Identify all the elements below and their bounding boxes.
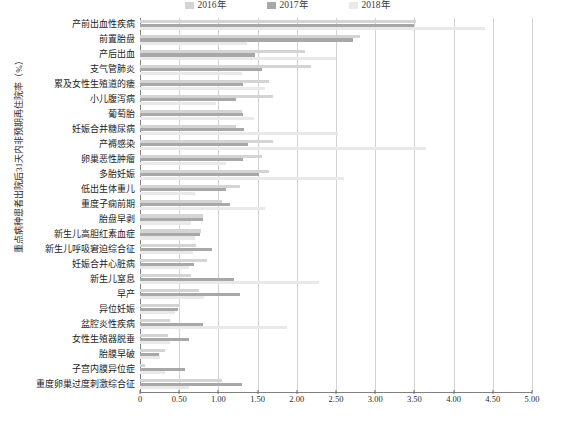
gridline bbox=[532, 18, 533, 392]
bar-group bbox=[140, 317, 532, 332]
bar-2018-7[interactable] bbox=[140, 132, 338, 135]
x-tick-mark bbox=[492, 390, 493, 394]
category-label: 胎膜早破 bbox=[99, 350, 135, 359]
x-tick-label: 4.50 bbox=[485, 394, 500, 404]
bar-group bbox=[140, 242, 532, 257]
x-axis-tick-labels: 00.501.001.502.002.503.003.504.004.505.0… bbox=[140, 394, 532, 408]
bar-group bbox=[140, 123, 532, 138]
category-label: 早产 bbox=[117, 290, 135, 299]
bar-2018-9[interactable] bbox=[140, 162, 226, 165]
bar-2018-8[interactable] bbox=[140, 147, 426, 150]
bar-group bbox=[140, 138, 532, 153]
category-label: 葡萄胎 bbox=[108, 110, 135, 119]
legend-swatch-icon bbox=[349, 2, 358, 9]
bar-2018-18[interactable] bbox=[140, 296, 204, 299]
bar-2018-11[interactable] bbox=[140, 192, 195, 195]
bar-group bbox=[140, 287, 532, 302]
bar-2018-20[interactable] bbox=[140, 326, 287, 329]
bar-2018-23[interactable] bbox=[140, 371, 165, 374]
bar-2018-14[interactable] bbox=[140, 236, 195, 239]
x-tick-label: 2.00 bbox=[289, 394, 304, 404]
bar-2018-2[interactable] bbox=[140, 57, 336, 60]
x-tick-mark bbox=[336, 390, 337, 394]
category-label: 新生儿窒息 bbox=[90, 275, 135, 284]
legend-item-2018年[interactable]: 2018年 bbox=[349, 1, 391, 11]
legend-swatch-icon bbox=[267, 2, 276, 9]
bar-2018-4[interactable] bbox=[140, 87, 265, 90]
bar-group bbox=[140, 198, 532, 213]
bar-group bbox=[140, 347, 532, 362]
bar-group bbox=[140, 78, 532, 93]
bar-group bbox=[140, 63, 532, 78]
category-label: 产褥感染 bbox=[99, 140, 135, 149]
legend-label: 2017年 bbox=[280, 1, 309, 11]
category-label: 小儿腹泻病 bbox=[90, 95, 135, 104]
legend-item-2016年[interactable]: 2016年 bbox=[185, 1, 227, 11]
x-tick-label: 5.00 bbox=[525, 394, 540, 404]
category-label: 新生儿高胆红素血症 bbox=[54, 230, 135, 239]
bar-group bbox=[140, 183, 532, 198]
bar-2018-24[interactable] bbox=[140, 386, 189, 389]
category-label: 异位妊娠 bbox=[99, 305, 135, 314]
x-tick-label: 1.50 bbox=[250, 394, 265, 404]
x-tick-mark bbox=[453, 390, 454, 394]
bar-2018-17[interactable] bbox=[140, 281, 319, 284]
bar-group bbox=[140, 168, 532, 183]
x-tick-mark bbox=[179, 390, 180, 394]
x-tick-label: 0 bbox=[138, 394, 142, 404]
category-label: 胎盘早剥 bbox=[99, 215, 135, 224]
bar-group bbox=[140, 108, 532, 123]
x-tick-mark bbox=[257, 390, 258, 394]
category-label: 妊娠合并心脏病 bbox=[72, 260, 135, 269]
legend-swatch-icon bbox=[185, 2, 194, 9]
x-tick-mark bbox=[296, 390, 297, 394]
legend-label: 2016年 bbox=[198, 1, 227, 11]
bar-group bbox=[140, 48, 532, 63]
category-label: 女性生殖器脱垂 bbox=[72, 335, 135, 344]
category-label: 卵巢恶性肿瘤 bbox=[81, 155, 135, 164]
bar-group bbox=[140, 33, 532, 48]
x-tick-mark bbox=[532, 390, 533, 394]
bar-2018-19[interactable] bbox=[140, 311, 175, 314]
category-label: 多胎妊娠 bbox=[99, 170, 135, 179]
bar-2018-15[interactable] bbox=[140, 251, 193, 254]
category-label: 新生儿呼吸窘迫综合征 bbox=[45, 245, 135, 254]
bar-group bbox=[140, 18, 532, 33]
category-label: 产后出血 bbox=[99, 50, 135, 59]
bar-group bbox=[140, 227, 532, 242]
x-tick-mark bbox=[140, 390, 141, 394]
x-tick-label: 1.00 bbox=[211, 394, 226, 404]
y-axis-category-labels: 产前出血性疾病前置胎盘产后出血支气管肺炎累及女性生殖道的瘘小儿腹泻病葡萄胎妊娠合… bbox=[0, 18, 138, 392]
category-label: 累及女性生殖道的瘘 bbox=[54, 80, 135, 89]
bar-2018-12[interactable] bbox=[140, 207, 265, 210]
bar-group bbox=[140, 332, 532, 347]
x-tick-label: 2.50 bbox=[329, 394, 344, 404]
bar-group bbox=[140, 153, 532, 168]
bar-2018-5[interactable] bbox=[140, 102, 216, 105]
bar-2018-6[interactable] bbox=[140, 117, 254, 120]
bar-2018-22[interactable] bbox=[140, 356, 160, 359]
category-label: 支气管肺炎 bbox=[90, 65, 135, 74]
category-label: 妊娠合并糖尿病 bbox=[72, 125, 135, 134]
bar-2018-1[interactable] bbox=[140, 42, 247, 45]
x-tick-mark bbox=[218, 390, 219, 394]
legend-item-2017年[interactable]: 2017年 bbox=[267, 1, 309, 11]
bar-group bbox=[140, 212, 532, 227]
bar-group bbox=[140, 257, 532, 272]
bar-2018-16[interactable] bbox=[140, 266, 189, 269]
x-tick-label: 3.00 bbox=[368, 394, 383, 404]
bar-2018-10[interactable] bbox=[140, 177, 344, 180]
bar-group bbox=[140, 362, 532, 377]
category-label: 盆腔炎性疾病 bbox=[81, 320, 135, 329]
category-label: 低出生体重儿 bbox=[81, 185, 135, 194]
x-tick-mark bbox=[414, 390, 415, 394]
x-tick-mark bbox=[375, 390, 376, 394]
bar-2018-0[interactable] bbox=[140, 27, 485, 30]
x-tick-label: 0.50 bbox=[172, 394, 187, 404]
bar-2018-3[interactable] bbox=[140, 72, 242, 75]
x-tick-label: 4.00 bbox=[446, 394, 461, 404]
category-label: 重度卵巢过度刺激综合征 bbox=[36, 380, 135, 389]
bar-2018-21[interactable] bbox=[140, 341, 170, 344]
bar-2018-13[interactable] bbox=[140, 221, 191, 224]
chart-container: 2016年2017年2018年 重点病种患者出院后31天内非预期再住院率（%） … bbox=[0, 0, 575, 428]
